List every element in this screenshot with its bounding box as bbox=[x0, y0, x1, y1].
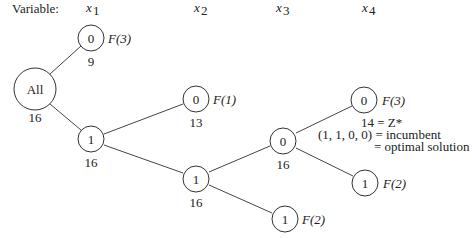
svg-text:4: 4 bbox=[369, 3, 376, 18]
branch-and-bound-tree: Variable: x 1 x 2 x 3 x 4 All 16 0 F(3) … bbox=[0, 0, 472, 238]
fathom-label: F(2) bbox=[382, 176, 406, 191]
edge-x2-1-x3-1 bbox=[209, 185, 272, 213]
node-x4-0: 0 F(3) bbox=[351, 87, 405, 113]
svg-text:1: 1 bbox=[88, 132, 95, 147]
svg-text:x: x bbox=[361, 0, 368, 15]
svg-text:x: x bbox=[85, 0, 92, 15]
incumbent-annotation: 14 = Z* (1, 1, 0, 0) = incumbent = optim… bbox=[318, 115, 470, 154]
column-x4: x 4 bbox=[361, 0, 376, 18]
fathom-label: F(1) bbox=[212, 92, 236, 107]
svg-text:1: 1 bbox=[362, 176, 369, 191]
edge-root-x1-0 bbox=[50, 46, 81, 74]
svg-text:x: x bbox=[193, 0, 200, 15]
node-root: All 16 bbox=[14, 68, 56, 125]
svg-text:2: 2 bbox=[201, 3, 208, 18]
bound-value: 13 bbox=[190, 115, 203, 130]
edge-x1-1-x2-1 bbox=[104, 145, 183, 173]
svg-text:0: 0 bbox=[88, 31, 95, 46]
svg-text:x: x bbox=[275, 0, 282, 15]
node-x3-0: 0 16 bbox=[270, 128, 296, 172]
bound-value: 16 bbox=[85, 155, 99, 170]
svg-text:1: 1 bbox=[193, 172, 200, 187]
bound-value: 16 bbox=[29, 110, 43, 125]
variable-label: Variable: bbox=[12, 1, 59, 16]
fathom-label: F(3) bbox=[107, 31, 131, 46]
svg-text:0: 0 bbox=[361, 93, 368, 108]
node-x1-1: 1 16 bbox=[78, 126, 104, 170]
svg-text:1: 1 bbox=[93, 3, 100, 18]
node-x2-0: 0 F(1) 13 bbox=[183, 86, 236, 130]
svg-text:0: 0 bbox=[280, 134, 287, 149]
node-x3-1: 1 F(2) bbox=[272, 206, 325, 232]
edge-root-x1-1 bbox=[50, 104, 81, 130]
edge-x1-1-x2-0 bbox=[104, 104, 183, 134]
bound-value: 16 bbox=[277, 157, 291, 172]
edge-x2-1-x3-0 bbox=[209, 146, 270, 172]
bound-value: 9 bbox=[88, 54, 95, 69]
svg-text:0: 0 bbox=[193, 92, 200, 107]
fathom-label: F(2) bbox=[301, 212, 325, 227]
column-x3: x 3 bbox=[275, 0, 290, 18]
optimal-solution-label: = optimal solution bbox=[374, 139, 470, 154]
svg-text:3: 3 bbox=[283, 3, 290, 18]
node-x1-0: 0 F(3) 9 bbox=[78, 25, 131, 69]
node-x4-1: 1 F(2) bbox=[352, 170, 406, 196]
bound-value: 16 bbox=[190, 195, 204, 210]
fathom-label: F(3) bbox=[381, 93, 405, 108]
svg-text:All: All bbox=[27, 82, 44, 97]
column-x1: x 1 bbox=[85, 0, 100, 18]
node-x2-1: 1 16 bbox=[183, 166, 209, 210]
edge-x3-0-x4-1 bbox=[296, 148, 353, 176]
svg-text:1: 1 bbox=[282, 212, 289, 227]
column-x2: x 2 bbox=[193, 0, 208, 18]
